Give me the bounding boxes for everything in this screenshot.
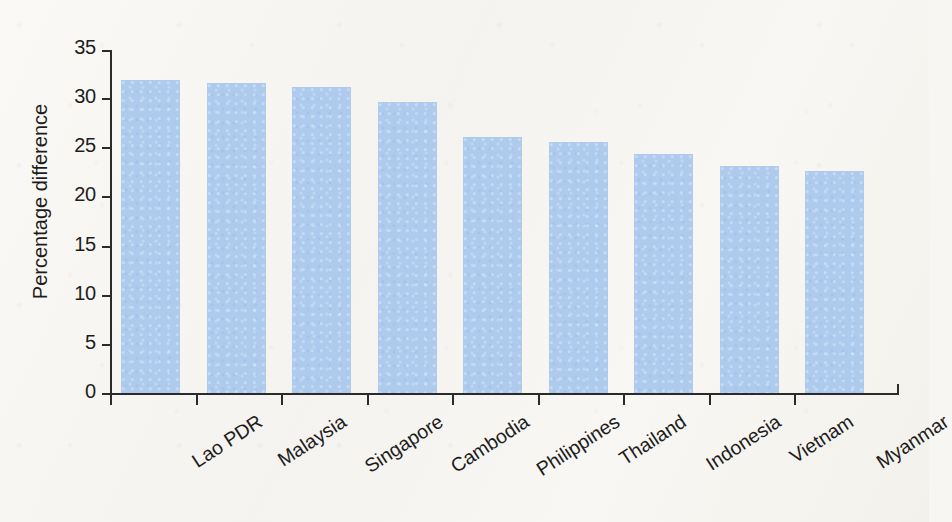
x-tick-mark xyxy=(623,395,625,405)
y-tick-mark xyxy=(102,98,111,100)
y-axis-title: Percentage difference xyxy=(29,82,52,322)
y-tick-label: 20 xyxy=(50,183,96,206)
y-tick-label: 35 xyxy=(50,36,96,59)
x-tick-mark xyxy=(794,395,796,405)
x-tick-label: Cambodia xyxy=(446,410,533,478)
y-tick-label: 15 xyxy=(50,233,96,256)
bar xyxy=(634,154,693,394)
y-axis-top-cap xyxy=(102,50,111,52)
x-tick-label: Indonesia xyxy=(702,410,785,475)
x-tick-label: Malaysia xyxy=(273,410,350,471)
x-tick-mark xyxy=(538,395,540,405)
y-tick-mark xyxy=(102,344,111,346)
x-tick-label: Thailand xyxy=(615,410,690,470)
bars-layer xyxy=(110,50,898,394)
y-tick-label: 30 xyxy=(50,85,96,108)
y-tick-mark xyxy=(102,196,111,198)
x-tick-label: Singapore xyxy=(360,410,447,478)
plot-area xyxy=(110,50,898,394)
x-tick-mark xyxy=(709,395,711,405)
y-tick-mark xyxy=(102,246,111,248)
x-tick-label: Vietnam xyxy=(785,410,857,468)
bar xyxy=(549,142,608,394)
bar xyxy=(720,166,779,394)
y-tick-label: 10 xyxy=(50,282,96,305)
y-tick-label: 0 xyxy=(50,380,96,403)
x-tick-mark xyxy=(452,395,454,405)
bar xyxy=(805,171,864,394)
bar xyxy=(207,83,266,394)
y-tick-label: 5 xyxy=(50,331,96,354)
bar xyxy=(121,80,180,394)
x-tick-mark xyxy=(110,395,112,405)
x-axis-end-cap xyxy=(897,384,899,395)
bar xyxy=(463,137,522,394)
x-tick-label: Philippines xyxy=(532,410,624,481)
y-tick-mark xyxy=(102,147,111,149)
x-tick-label: Myanmar xyxy=(872,410,952,474)
x-tick-label: Lao PDR xyxy=(188,410,267,472)
x-tick-mark xyxy=(281,395,283,405)
y-tick-mark xyxy=(102,295,111,297)
y-tick-label: 25 xyxy=(50,134,96,157)
bar xyxy=(292,87,351,394)
x-axis-line xyxy=(110,393,899,395)
x-tick-mark xyxy=(367,395,369,405)
bar xyxy=(378,102,437,394)
x-tick-mark xyxy=(196,395,198,405)
